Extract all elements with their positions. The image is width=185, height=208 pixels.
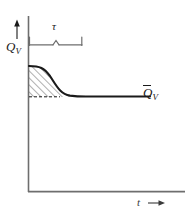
tau-label: τ [52,21,56,32]
correlation-function-figure: QV τ QV t [0,0,185,208]
y-axis-arrow-icon [14,20,20,40]
x-axis-arrow-icon [148,200,165,205]
y-axis-label: QV [6,40,21,56]
plot-canvas [0,0,185,208]
correlation-time-brace [29,37,82,46]
plateau-value-label: QV [143,86,158,102]
x-axis-label: t [137,197,140,208]
